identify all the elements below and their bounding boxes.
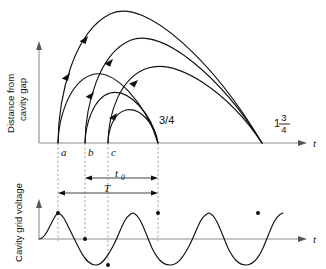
dimension-period: T [58,182,158,195]
bottom-x-axis-label: t [313,233,317,245]
tick-label-c: c [111,146,116,158]
trajectory-direction-arrows [62,36,138,120]
tick-label-a: a [61,146,67,158]
svg-text:cavity gap: cavity gap [17,78,28,121]
wave-marker-three-quarters [156,211,160,215]
top-y-axis-label: Distance from cavity gap [5,74,28,133]
bottom-y-axis [36,199,42,239]
top-x-axis-label: t [313,137,317,149]
svg-text:3: 3 [281,112,286,123]
dimension-t0-label: t [115,167,119,179]
bottom-panel: t Cavity grid voltage [13,183,317,267]
svg-text:4: 4 [281,124,286,135]
dimension-t0-subscript: 0 [121,173,125,182]
guide-lines [58,143,158,266]
svg-text:Distance from: Distance from [5,74,16,133]
wave-marker-a [56,211,60,215]
wave-marker-peak-3 [256,211,260,215]
svg-text:1: 1 [274,117,280,129]
applegate-diagram-figure: 3/4 1 3 4 t Distance from cavity gap a b… [0,0,326,269]
dimension-period-label: T [104,182,111,194]
label-one-and-three-quarters: 1 3 4 [274,112,290,135]
top-x-axis [39,140,307,146]
top-panel: 3/4 1 3 4 t Distance from cavity gap a b… [5,11,317,158]
dimension-t0: t 0 [85,167,158,182]
wave-marker-b [83,237,87,241]
wave-marker-c [106,263,110,267]
label-three-quarters: 3/4 [159,114,174,126]
bottom-y-axis-label: Cavity grid voltage [13,183,24,262]
top-y-axis [36,41,42,143]
tick-label-b: b [88,146,94,158]
